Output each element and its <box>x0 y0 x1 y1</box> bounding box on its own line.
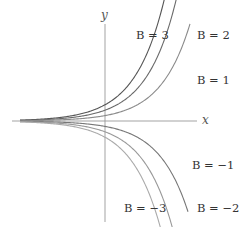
y-axis-label: y <box>101 9 108 21</box>
x-axis-label: x <box>202 114 209 126</box>
label-b1: B = 1 <box>197 74 230 86</box>
label-bm2: B = −2 <box>197 202 239 214</box>
label-bm3: B = −3 <box>124 202 166 214</box>
label-b3: B = 3 <box>136 29 169 41</box>
label-b2: B = 2 <box>197 29 230 41</box>
curve-b3 <box>20 0 172 120</box>
label-bm1: B = −1 <box>192 159 234 171</box>
